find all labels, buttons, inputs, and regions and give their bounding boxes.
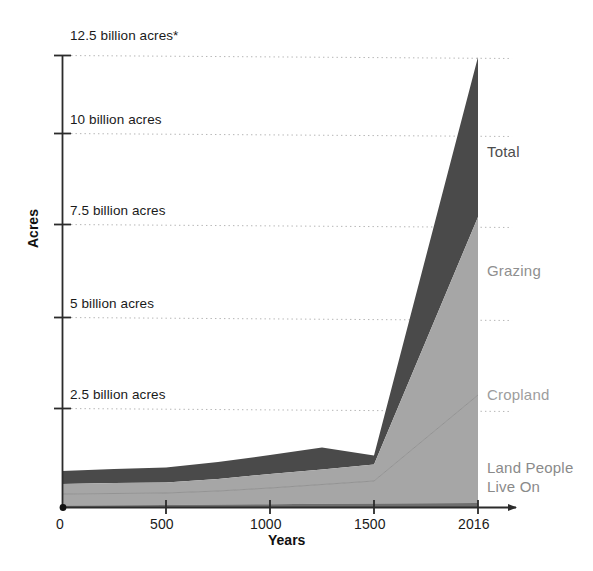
x-tick-label-1500: 1500 [354,516,386,532]
series-label-land-people-line2: Live On [487,477,573,496]
series-label-total: Total [487,143,520,160]
y-tick-label-7-5: 7.5 billion acres [70,203,166,218]
y-axis-title: Acres [25,209,41,248]
y-tick-label-2-5: 2.5 billion acres [70,387,166,402]
x-tick-label-0: 0 [56,516,64,532]
origin-dot [60,504,67,511]
y-tick-label-5: 5 billion acres [70,296,154,311]
series-label-grazing: Grazing [487,262,541,279]
gridline-10 [62,134,512,137]
x-tick-label-500: 500 [150,516,174,532]
y-tick-label-12-5: 12.5 billion acres* [70,28,178,43]
x-tick-label-2016: 2016 [458,516,490,532]
series-label-cropland: Cropland [487,386,549,403]
y-tick-label-10: 10 billion acres [70,112,162,127]
gridline-12-5 [62,56,512,59]
series-label-land-people-line1: Land People [487,458,573,477]
area-chart-figure: 12.5 billion acres* 10 billion acres 7.5… [0,0,593,571]
x-axis-title: Years [268,532,305,548]
series-label-land-people: Land People Live On [487,458,573,496]
x-tick-label-1000: 1000 [250,516,282,532]
